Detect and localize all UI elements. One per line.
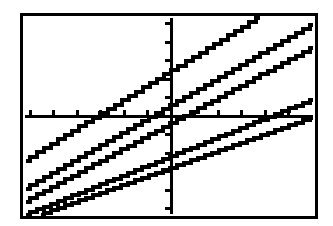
graph-plot-area[interactable]	[23, 16, 315, 216]
function-line-line-5	[41, 118, 313, 215]
screenshot-root	[0, 0, 333, 226]
graph-canvas	[23, 16, 315, 216]
calculator-screen-frame	[20, 13, 318, 219]
